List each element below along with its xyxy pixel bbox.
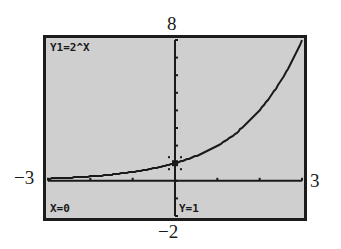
xmin-label: −3: [14, 168, 34, 187]
axes: [48, 40, 302, 216]
equation-label: Y1=2^X: [50, 41, 90, 54]
ymax-label: 8: [167, 14, 177, 33]
graph-plot: Y1=2^X X=0 Y=1: [46, 38, 304, 218]
xmax-label: 3: [310, 171, 320, 190]
trace-x-label: X=0: [50, 202, 70, 215]
ymin-label: −2: [158, 222, 178, 241]
trace-y-label: Y=1: [179, 202, 199, 215]
calculator-graph-screen: Y1=2^X X=0 Y=1: [43, 35, 307, 221]
